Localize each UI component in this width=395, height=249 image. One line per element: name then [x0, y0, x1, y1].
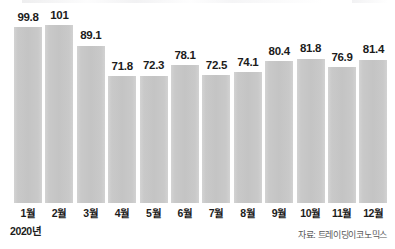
- bar: [202, 75, 230, 203]
- bar-value-label: 71.8: [112, 61, 133, 73]
- bar-group: 81.8: [297, 0, 325, 203]
- bar-group: 99.8: [14, 0, 42, 203]
- bar: [328, 67, 356, 203]
- plot-area: 99.810189.171.872.378.172.574.180.481.87…: [0, 0, 395, 203]
- x-axis-tick: 7월: [202, 208, 230, 219]
- x-axis-tick: 11월: [328, 208, 356, 219]
- bar-value-label: 99.8: [17, 12, 38, 24]
- bar-group: 72.5: [202, 0, 230, 203]
- bar: [108, 76, 136, 203]
- x-axis-tick: 6월: [171, 208, 199, 219]
- bar-value-label: 72.3: [143, 60, 164, 72]
- bar-group: 72.3: [140, 0, 168, 203]
- bar: [140, 76, 168, 203]
- bar-value-label: 101: [50, 10, 68, 22]
- source-attribution: 자료: 트레이딩이코노믹스: [298, 231, 387, 240]
- x-axis-tick: 8월: [234, 208, 262, 219]
- x-axis-tick: 9월: [265, 208, 293, 219]
- bar-value-label: 81.8: [300, 43, 321, 55]
- bar: [77, 46, 105, 203]
- bar-group: 89.1: [77, 0, 105, 203]
- bar-group: 80.4: [265, 0, 293, 203]
- bar-group: 71.8: [108, 0, 136, 203]
- bar-value-label: 78.1: [174, 50, 195, 62]
- bar-value-label: 72.5: [206, 60, 227, 72]
- x-axis-tick: 4월: [108, 208, 136, 219]
- bar: [45, 25, 73, 203]
- bar-group: 74.1: [234, 0, 262, 203]
- x-axis-tick: 5월: [140, 208, 168, 219]
- bar-group: 101: [45, 0, 73, 203]
- x-axis-tick: 3월: [77, 208, 105, 219]
- bar: [359, 60, 387, 203]
- x-axis-labels: 1월2월3월4월5월6월7월8월9월10월11월12월: [0, 203, 395, 225]
- bar-group: 76.9: [328, 0, 356, 203]
- bar-chart-figure: 99.810189.171.872.378.172.574.180.481.87…: [0, 0, 395, 249]
- bar-value-label: 81.4: [363, 44, 384, 56]
- bar: [297, 59, 325, 203]
- bar-value-label: 89.1: [80, 30, 101, 42]
- x-axis-tick: 2월: [45, 208, 73, 219]
- bar-value-label: 74.1: [237, 57, 258, 69]
- bar: [14, 27, 42, 203]
- bar: [265, 61, 293, 203]
- bar-value-label: 76.9: [331, 52, 352, 64]
- year-label: 2020년: [10, 226, 41, 237]
- bar-group: 81.4: [359, 0, 387, 203]
- bar: [234, 72, 262, 203]
- x-axis-tick: 12월: [359, 208, 387, 219]
- x-axis-tick: 10월: [297, 208, 325, 219]
- bar-value-label: 80.4: [269, 46, 290, 58]
- bar-group: 78.1: [171, 0, 199, 203]
- bar: [171, 65, 199, 203]
- x-axis-tick: 1월: [14, 208, 42, 219]
